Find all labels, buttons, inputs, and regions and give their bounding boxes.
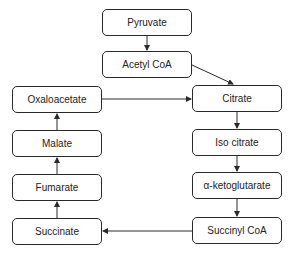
- node-succinate: Succinate: [12, 218, 102, 245]
- node-acetyl-coa: Acetyl CoA: [102, 51, 192, 78]
- node-alpha-ketoglutarate: α-ketoglutarate: [192, 172, 282, 199]
- arrow-acetylcoa-citrate: [192, 65, 233, 84]
- node-citrate: Citrate: [192, 85, 282, 112]
- node-succinyl-coa: Succinyl CoA: [192, 217, 282, 244]
- node-pyruvate: Pyruvate: [102, 9, 192, 36]
- node-fumarate: Fumarate: [12, 174, 102, 201]
- node-oxaloacetate: Oxaloacetate: [12, 86, 102, 113]
- node-iso-citrate: Iso citrate: [192, 129, 282, 156]
- connector-layer: [0, 0, 293, 254]
- node-malate: Malate: [12, 130, 102, 157]
